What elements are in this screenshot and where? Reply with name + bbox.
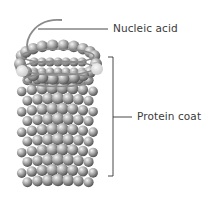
capsomere-sphere	[37, 124, 48, 135]
capsomere-sphere	[78, 85, 88, 95]
capsomere-sphere	[37, 104, 48, 115]
capsomere-sphere	[88, 107, 98, 117]
capsomere-sphere	[73, 94, 84, 105]
capsomere-sphere	[17, 128, 27, 138]
capsomere-sphere	[22, 137, 32, 147]
capsomere-sphere	[67, 104, 78, 115]
virus-diagram	[0, 0, 216, 199]
capsomere-sphere	[84, 96, 94, 106]
capsomere-sphere	[17, 87, 27, 97]
capsomere-sphere	[73, 176, 84, 187]
capsomere-sphere	[22, 96, 32, 106]
capsomere-sphere	[67, 124, 78, 135]
capsomere-sphere	[22, 116, 32, 126]
capsomere-sphere	[84, 177, 94, 187]
capsomere-sphere	[32, 94, 43, 105]
capsomere-sphere	[27, 166, 37, 176]
capsomere-sphere	[32, 114, 43, 125]
capsomere-sphere	[62, 113, 74, 125]
capsomere-sphere	[17, 148, 27, 158]
capsomere-sphere	[17, 168, 27, 178]
capsomere-sphere	[67, 165, 78, 176]
capsomere-sphere	[37, 165, 48, 176]
capsomere-sphere	[27, 146, 37, 156]
capsomere-sphere	[84, 116, 94, 126]
capsomere-sphere	[27, 105, 37, 115]
protein-coat-bracket	[108, 57, 132, 176]
capsomere-sphere	[37, 144, 48, 155]
capsomere-sphere	[78, 166, 88, 176]
capsomere-sphere	[22, 177, 32, 187]
capsomere-sphere	[73, 155, 84, 166]
protein-coat-label: Protein coat	[137, 110, 201, 122]
capsomere-sphere	[17, 107, 27, 117]
capsomere-sphere	[62, 93, 74, 105]
capsomere-sphere	[84, 157, 94, 167]
capsomere-sphere	[78, 125, 88, 135]
capsomere-sphere	[62, 134, 74, 146]
capsomere-sphere	[62, 154, 74, 166]
capsomere-sphere	[32, 155, 43, 166]
capsomere-sphere	[53, 57, 62, 66]
capsomere-sphere	[27, 85, 37, 95]
capsomere-sphere	[52, 174, 64, 186]
capsomere-sphere	[27, 126, 37, 136]
capsomere-sphere	[88, 148, 98, 158]
capsomere-highlight-right	[91, 63, 103, 75]
capsomere-sphere	[84, 137, 94, 147]
capsomere-sphere	[78, 146, 88, 156]
capsomere-sphere	[78, 105, 88, 115]
capsomere-sphere	[73, 135, 84, 146]
nucleic-acid-label: Nucleic acid	[113, 22, 178, 34]
capsomere-sphere	[22, 157, 32, 167]
capsomere-sphere	[73, 114, 84, 125]
capsomere-sphere	[62, 175, 74, 187]
capsomere-sphere	[32, 176, 43, 187]
capsomere-sphere	[88, 127, 98, 137]
capsomere-sphere	[32, 135, 43, 146]
capsomere-sphere	[67, 144, 78, 155]
capsomere-sphere	[88, 87, 98, 97]
capsomere-highlight-left	[16, 65, 28, 77]
capsomere-sphere	[88, 168, 98, 178]
